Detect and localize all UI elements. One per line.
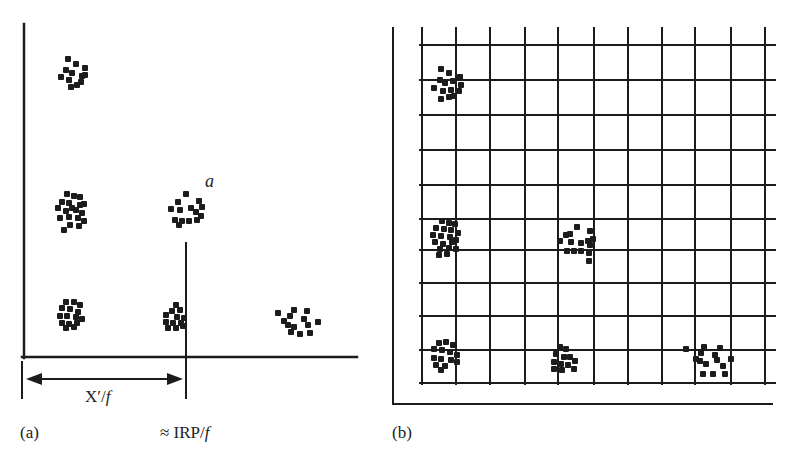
dot <box>59 199 65 205</box>
dot <box>438 356 444 362</box>
dot <box>177 207 183 213</box>
dot <box>578 240 584 246</box>
dot <box>301 316 307 322</box>
dot <box>174 314 180 320</box>
dot-cluster-bottom-mid <box>163 302 187 331</box>
dot <box>561 354 567 360</box>
dot <box>61 227 67 233</box>
dot <box>571 248 577 254</box>
dot <box>438 233 444 239</box>
dot <box>444 251 450 257</box>
dot <box>307 330 313 336</box>
dot <box>291 324 297 330</box>
dot <box>568 239 574 245</box>
dot <box>67 306 73 312</box>
dot <box>71 324 77 330</box>
dot <box>722 371 728 377</box>
dot <box>163 319 169 325</box>
dot <box>68 84 74 90</box>
dot <box>196 198 202 204</box>
dot <box>183 191 189 197</box>
dot-cluster-mid-left <box>430 218 461 258</box>
dot <box>453 246 459 252</box>
dot <box>436 252 442 258</box>
dot <box>81 201 87 207</box>
dot <box>454 359 460 365</box>
dot-cluster-top-left <box>58 56 88 90</box>
dot <box>71 299 77 305</box>
dot <box>551 366 557 372</box>
dot-cluster-bottom-right <box>275 307 321 337</box>
dot <box>442 80 448 86</box>
dot <box>559 367 565 373</box>
dot <box>448 357 454 363</box>
dot <box>73 314 79 320</box>
dot <box>199 204 205 210</box>
dot <box>59 305 65 311</box>
dot <box>63 325 69 331</box>
dot <box>71 193 77 199</box>
dot <box>175 199 181 205</box>
dot <box>165 325 171 331</box>
dot <box>430 232 436 238</box>
dot <box>717 345 723 351</box>
dot <box>447 349 453 355</box>
dot <box>587 242 593 248</box>
dot <box>438 367 444 373</box>
dot <box>438 96 444 102</box>
dot <box>82 65 88 71</box>
dot <box>297 331 303 337</box>
dot-cluster-top-left <box>431 66 464 102</box>
dot <box>439 347 445 353</box>
distance-label: X′/f <box>85 387 110 407</box>
dot <box>700 371 706 377</box>
panel-a-caption: (a) <box>20 423 39 443</box>
dot <box>64 191 70 197</box>
dot <box>446 70 452 76</box>
dot <box>440 88 446 94</box>
irp-label: ≈ IRP/f <box>160 423 210 443</box>
dot <box>63 208 69 214</box>
dot <box>450 342 456 348</box>
dot <box>703 361 709 367</box>
dot <box>557 238 563 244</box>
dot <box>433 362 439 368</box>
dot <box>452 221 458 227</box>
dot <box>64 313 70 319</box>
dot <box>455 230 461 236</box>
dot <box>69 205 75 211</box>
dot <box>198 213 204 219</box>
dot <box>578 248 584 254</box>
dot <box>449 239 455 245</box>
dot <box>590 236 596 242</box>
dot <box>73 61 79 67</box>
dot <box>304 308 310 314</box>
dot <box>567 231 573 237</box>
dot <box>180 323 186 329</box>
dot <box>77 302 83 308</box>
dot <box>571 366 577 372</box>
dot <box>456 88 462 94</box>
dot <box>586 250 592 256</box>
dot <box>78 79 84 85</box>
dot <box>285 322 291 328</box>
dot <box>448 227 454 233</box>
dot <box>565 362 571 368</box>
figure-canvas <box>0 0 792 466</box>
dot <box>553 351 559 357</box>
dot <box>557 344 563 350</box>
dot <box>168 206 174 212</box>
dot-cluster-bottom-left <box>57 299 85 331</box>
dot <box>275 310 281 316</box>
distance-label-f: f <box>106 387 111 406</box>
dot <box>76 223 82 229</box>
dot <box>66 77 72 83</box>
dot <box>75 215 81 221</box>
dot <box>586 258 592 264</box>
dot <box>431 346 437 352</box>
arrow-right-head-icon <box>167 373 183 385</box>
dot <box>431 85 437 91</box>
dot <box>57 313 63 319</box>
dot <box>176 222 182 228</box>
dot <box>446 245 452 251</box>
